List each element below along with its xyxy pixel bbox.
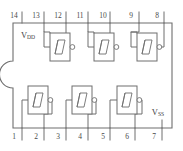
vdd-label-sub: DD xyxy=(27,35,35,41)
pin-number-2: 2 xyxy=(34,132,38,141)
inverter-bubble-icon xyxy=(137,98,142,103)
pin-number-10: 10 xyxy=(99,11,107,20)
wire-in-1 xyxy=(22,100,28,128)
pin-number-4: 4 xyxy=(78,132,82,141)
top-pin-leads xyxy=(22,12,164,23)
vss-label: VSS xyxy=(152,107,164,118)
wire-in-9-branch xyxy=(131,32,137,33)
gate-bottom-3 xyxy=(110,86,142,128)
wire-in-11-branch xyxy=(88,32,94,47)
pin-number-3: 3 xyxy=(56,132,60,141)
top-pin-numbers: 14 13 12 11 10 9 8 xyxy=(10,11,159,20)
pinout-canvas: 14 13 12 11 10 9 8 1 2 3 4 5 6 7 xyxy=(0,0,183,151)
wire-out-8 xyxy=(160,23,164,47)
gate-top-3-box xyxy=(137,33,157,61)
pin-number-12: 12 xyxy=(54,11,62,20)
pin-number-7: 7 xyxy=(152,132,156,141)
inverter-bubble-icon xyxy=(92,98,97,103)
inverter-bubble-icon xyxy=(70,45,75,50)
inverter-bubble-icon xyxy=(48,98,53,103)
pin-number-6: 6 xyxy=(125,132,129,141)
pin-number-14: 14 xyxy=(10,11,18,20)
gate-top-2-box xyxy=(94,33,114,61)
vdd-label: VDD xyxy=(21,30,35,41)
gate-top-1 xyxy=(44,23,75,61)
inverter-bubble-icon xyxy=(157,45,162,50)
wire-in-5 xyxy=(110,100,117,128)
gate-top-2 xyxy=(88,23,119,61)
wire-in-3 xyxy=(66,100,72,128)
pin-number-1: 1 xyxy=(12,132,16,141)
gate-top-3 xyxy=(131,23,164,61)
inverter-bubble-icon xyxy=(114,45,119,50)
gate-bottom-1 xyxy=(22,86,53,128)
gate-top-1-box xyxy=(50,33,70,61)
gate-bottom-1-box xyxy=(28,86,48,114)
gate-bottom-2 xyxy=(66,86,97,128)
pin-number-13: 13 xyxy=(32,11,40,20)
wire-in-13-branch xyxy=(44,32,50,47)
wire-in-13 xyxy=(44,23,50,33)
gate-bottom-3-box xyxy=(117,86,137,114)
wire-in-11 xyxy=(88,23,94,33)
pin-number-9: 9 xyxy=(129,11,133,20)
pin-number-8: 8 xyxy=(155,11,159,20)
pin-number-11: 11 xyxy=(76,11,83,20)
gate-bottom-2-box xyxy=(72,86,92,114)
bottom-pin-leads xyxy=(22,128,162,140)
pin-number-5: 5 xyxy=(101,132,105,141)
vss-label-sub: SS xyxy=(158,112,164,118)
ic-pinout-diagram: 14 13 12 11 10 9 8 1 2 3 4 5 6 7 xyxy=(0,0,183,151)
